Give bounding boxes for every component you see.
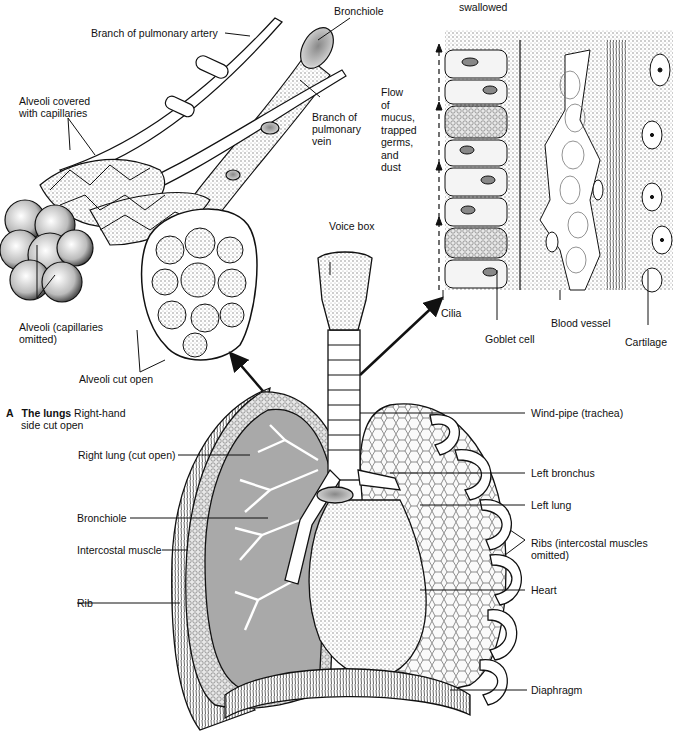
label-vein-line2: pulmonary xyxy=(312,123,361,135)
label-branch-pulmonary-artery: Branch of pulmonary artery xyxy=(91,27,218,39)
label-vein-line3: vein xyxy=(312,135,361,147)
label-windpipe: Wind-pipe (trachea) xyxy=(531,407,623,419)
flow-line1: Flow xyxy=(381,86,417,99)
ribs-omitted-line1: Ribs (intercostal muscles xyxy=(531,537,648,549)
alveoli-detail-drawing xyxy=(0,18,346,360)
caption-title: The lungs xyxy=(22,407,72,419)
label-alveoli-covered-line1: Alveoli covered xyxy=(19,95,90,107)
flow-line3: mucus, xyxy=(381,111,417,124)
flow-line6: and xyxy=(381,149,417,162)
caption-letter: A xyxy=(6,407,14,419)
label-branch-pulmonary-vein: Branch of pulmonary vein xyxy=(312,111,361,147)
label-alveoli-covered-line2: with capillaries xyxy=(19,107,90,119)
label-ribs-omitted: Ribs (intercostal muscles omitted) xyxy=(531,537,648,561)
ribs-omitted-line2: omitted) xyxy=(531,549,648,561)
flow-line7: dust xyxy=(381,161,417,174)
flow-line5: germs, xyxy=(381,136,417,149)
alveoli-omitted-line1: Alveoli (capillaries xyxy=(19,321,103,333)
label-left-lung: Left lung xyxy=(531,499,571,511)
airway-lining-drawing xyxy=(436,30,673,292)
caption-subtitle-line1: Right-hand xyxy=(74,407,125,419)
label-cartilage: Cartilage xyxy=(625,336,667,348)
label-goblet-cell: Goblet cell xyxy=(485,333,535,345)
label-alveoli-covered: Alveoli covered with capillaries xyxy=(19,95,90,119)
label-cilia: Cilia xyxy=(441,307,461,319)
label-alveoli-capillaries-omitted: Alveoli (capillaries omitted) xyxy=(19,321,103,345)
label-bronchiole: Bronchiole xyxy=(77,512,127,524)
alveoli-omitted-line2: omitted) xyxy=(19,333,103,345)
label-diaphragm: Diaphragm xyxy=(531,684,582,696)
top-right-partial-text: swallowed xyxy=(459,1,507,13)
label-intercostal-muscle: Intercostal muscle xyxy=(77,544,162,556)
label-voice-box: Voice box xyxy=(329,220,375,232)
flow-line2: of xyxy=(381,99,417,112)
label-alveoli-cut-open: Alveoli cut open xyxy=(79,373,153,385)
label-bronchiole-top: Bronchiole xyxy=(334,5,384,17)
label-right-lung: Right lung (cut open) xyxy=(78,449,175,461)
figure-caption: AThe lungs Right-hand side cut open xyxy=(6,407,125,431)
caption-subtitle-line2: side cut open xyxy=(6,419,125,431)
label-left-bronchus: Left bronchus xyxy=(531,467,595,479)
label-heart: Heart xyxy=(531,584,557,596)
label-vein-line1: Branch of xyxy=(312,111,361,123)
label-blood-vessel: Blood vessel xyxy=(551,317,611,329)
label-rib: Rib xyxy=(77,597,93,609)
label-flow-of-mucus: Flow of mucus, trapped germs, and dust xyxy=(381,86,417,174)
caption-line1: AThe lungs Right-hand xyxy=(6,407,125,419)
flow-line4: trapped xyxy=(381,124,417,137)
